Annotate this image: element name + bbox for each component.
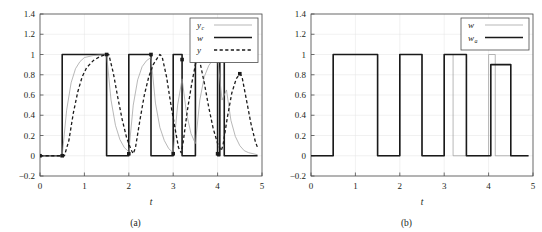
y-tick-label: 0.8 [295, 70, 307, 80]
data-marker [105, 53, 109, 57]
y-tick-label: 0.2 [295, 131, 306, 141]
x-tick-label: 1 [353, 181, 358, 191]
x-tick-label: 1 [82, 181, 87, 191]
y-tick-label: −0.2 [290, 171, 306, 181]
x-tick-label: 3 [442, 181, 447, 191]
legend-label: w [197, 33, 203, 43]
x-tick-label: 5 [531, 181, 536, 191]
data-marker [38, 154, 42, 158]
y-tick-label: 0.4 [24, 110, 36, 120]
x-tick-label: 0 [309, 181, 314, 191]
y-tick-label: 0 [302, 151, 307, 161]
x-tick-label: 0 [38, 181, 43, 191]
y-tick-label: 0.2 [24, 131, 35, 141]
y-tick-label: 0.4 [295, 110, 307, 120]
data-marker [171, 152, 175, 156]
y-tick-label: 0.6 [24, 90, 36, 100]
legend-label: y [196, 45, 201, 55]
panel-a: −0.200.20.40.60.811.21.4012345tycwy (a) [0, 0, 271, 232]
chart-a: −0.200.20.40.60.811.21.4012345tycwy [0, 0, 271, 214]
data-marker [180, 58, 184, 62]
y-tick-label: 1.2 [295, 29, 306, 39]
y-tick-label: 1 [302, 50, 307, 60]
data-marker [238, 72, 242, 76]
y-tick-label: 1.2 [24, 29, 35, 39]
chart-b: −0.200.20.40.60.811.21.4012345twwa [271, 0, 542, 214]
panel-b: −0.200.20.40.60.811.21.4012345twwa (b) [271, 0, 542, 232]
data-marker [216, 152, 220, 156]
x-tick-label: 4 [215, 181, 220, 191]
data-marker [60, 154, 64, 158]
y-tick-label: 1 [31, 50, 36, 60]
figure-container: −0.200.20.40.60.811.21.4012345tycwy (a) … [0, 0, 542, 232]
series-line [311, 55, 529, 156]
x-tick-label: 2 [398, 181, 403, 191]
data-marker [149, 53, 153, 57]
y-tick-label: 1.4 [24, 9, 36, 19]
x-axis-title: t [150, 197, 153, 207]
x-tick-label: 4 [486, 181, 491, 191]
legend-label: w [468, 20, 474, 30]
data-marker [127, 152, 131, 156]
x-tick-label: 2 [127, 181, 132, 191]
subcaption-b: (b) [271, 218, 542, 228]
x-tick-label: 5 [260, 181, 265, 191]
subcaption-a: (a) [0, 218, 271, 228]
y-tick-label: −0.2 [19, 171, 35, 181]
y-tick-label: 0.6 [295, 90, 307, 100]
y-tick-label: 0 [31, 151, 36, 161]
y-tick-label: 1.4 [295, 9, 307, 19]
series-line [311, 55, 529, 156]
series-line [40, 55, 258, 156]
x-tick-label: 3 [171, 181, 176, 191]
y-tick-label: 0.8 [24, 70, 36, 80]
x-axis-title: t [421, 197, 424, 207]
